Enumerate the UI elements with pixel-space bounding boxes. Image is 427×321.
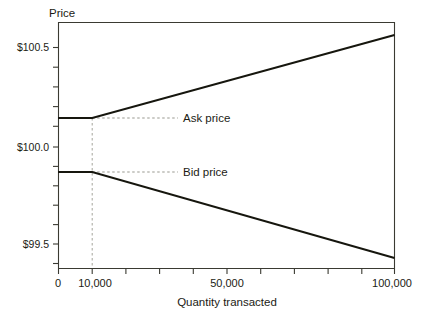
y-tick-label-100-5: $100.5 — [17, 41, 49, 53]
x-tick-label-50000: 50,000 — [210, 277, 244, 289]
x-tick-label-0: 0 — [55, 277, 61, 289]
price-quantity-chart: $100.5 $100.0 $99.5 0 10,000 50,000 100,… — [0, 0, 427, 321]
bid-price-annotation: Bid price — [183, 166, 228, 178]
chart-svg: $100.5 $100.0 $99.5 0 10,000 50,000 100,… — [0, 0, 427, 321]
chart-background — [0, 0, 427, 321]
y-axis-title: Price — [49, 7, 75, 19]
ask-price-annotation: Ask price — [183, 112, 230, 124]
y-tick-label-99-5: $99.5 — [23, 238, 49, 250]
y-tick-label-100-0: $100.0 — [17, 141, 49, 153]
x-tick-label-10000: 10,000 — [78, 277, 112, 289]
x-axis-title: Quantity transacted — [177, 296, 277, 308]
x-tick-label-100000: 100,000 — [372, 277, 412, 289]
